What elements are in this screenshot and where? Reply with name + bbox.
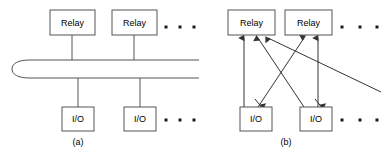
- panel-b-io-2[interactable]: I/O: [300, 107, 332, 131]
- relay-label: Relay: [123, 18, 147, 28]
- diagram-canvas: Relay Relay I/O I/O: [0, 0, 384, 158]
- shared-bus: [12, 60, 199, 78]
- ellipsis-dot: [376, 119, 379, 122]
- panel-b: Relay Relay I/O I/O: [228, 10, 381, 147]
- panel-a-caption: (a): [73, 137, 84, 147]
- panel-a-relay-2[interactable]: Relay: [112, 10, 157, 35]
- io-label: I/O: [72, 114, 84, 124]
- ellipsis-dot: [359, 26, 362, 29]
- panel-a-io-2[interactable]: I/O: [124, 107, 156, 131]
- ellipsis-dot: [341, 26, 344, 29]
- ellipsis-dot: [376, 26, 379, 29]
- panel-b-io-inbound-stubs: [255, 99, 322, 107]
- panel-b-io-1[interactable]: I/O: [240, 107, 272, 131]
- ellipsis-dot: [193, 26, 196, 29]
- ellipsis-dot: [179, 26, 182, 29]
- ellipsis-dot: [165, 119, 168, 122]
- panel-a-ellipsis-bottom: [165, 119, 196, 122]
- panel-b-caption: (b): [281, 137, 292, 147]
- ellipsis-dot: [359, 119, 362, 122]
- ellipsis-dot: [165, 26, 168, 29]
- panel-b-relay-2[interactable]: Relay: [285, 10, 332, 35]
- panel-b-ellipsis-top: [341, 26, 379, 29]
- panel-b-ellipsis-bottom: [341, 119, 379, 122]
- relay-label: Relay: [297, 18, 321, 28]
- ellipsis-dot: [179, 119, 182, 122]
- panel-b-arrows: [244, 38, 381, 107]
- relay-label: Relay: [240, 18, 264, 28]
- io-label: I/O: [250, 114, 262, 124]
- relay-label: Relay: [61, 18, 85, 28]
- ellipsis-dot: [193, 119, 196, 122]
- panel-a-io-1[interactable]: I/O: [62, 107, 94, 131]
- panel-a: Relay Relay I/O I/O: [12, 10, 199, 147]
- shared-bus-ellipse: [12, 60, 199, 78]
- io-label: I/O: [134, 114, 146, 124]
- arrow-far-node-to-relay1: [268, 38, 381, 92]
- figure-root: Relay Relay I/O I/O: [0, 0, 384, 158]
- io-label: I/O: [310, 114, 322, 124]
- panel-a-ellipsis-top: [165, 26, 196, 29]
- panel-a-relay-1[interactable]: Relay: [50, 10, 95, 35]
- ellipsis-dot: [341, 119, 344, 122]
- panel-b-relay-1[interactable]: Relay: [228, 10, 275, 35]
